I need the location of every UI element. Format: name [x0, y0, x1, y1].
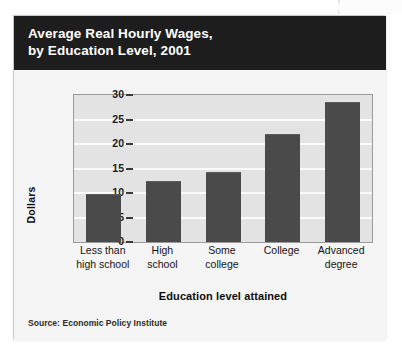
- bar: [86, 194, 121, 242]
- x-axis-category-label-line: college: [192, 258, 252, 272]
- bar: [265, 134, 300, 242]
- x-axis-category-label: Somecollege: [192, 244, 252, 271]
- x-axis-category-label-line: high school: [73, 258, 133, 272]
- bar: [146, 181, 181, 242]
- chart-body: Dollars 051015202530 Less thanhigh schoo…: [14, 70, 386, 340]
- scan-artifact: [338, 0, 402, 14]
- x-axis-category-label-line: Some: [192, 244, 252, 258]
- x-axis-category-label-line: degree: [311, 258, 371, 272]
- x-axis-category-label: Less thanhigh school: [73, 244, 133, 271]
- figure-title-band: Average Real Hourly Wages, by Education …: [14, 16, 386, 70]
- y-axis-title: Dollars: [25, 187, 37, 224]
- x-axis-category-label-line: High: [133, 244, 193, 258]
- x-axis-category-label-line: school: [133, 258, 193, 272]
- plot-area: 051015202530: [73, 94, 373, 243]
- x-axis-category-label: Highschool: [133, 244, 193, 271]
- figure-title-line-1: Average Real Hourly Wages,: [28, 25, 386, 42]
- figure-title-line-2: by Education Level, 2001: [28, 42, 386, 59]
- x-axis-category-label-line: College: [252, 244, 312, 258]
- bars-layer: [74, 95, 372, 242]
- x-axis-category-label-line: Less than: [73, 244, 133, 258]
- bar: [325, 102, 360, 242]
- x-axis-category-label: College: [252, 244, 312, 258]
- source-note: Source: Economic Policy Institute: [28, 318, 167, 328]
- x-axis-category-label: Advanceddegree: [311, 244, 371, 271]
- x-axis-category-labels: Less thanhigh schoolHighschoolSomecolleg…: [73, 244, 373, 278]
- x-axis-category-label-line: Advanced: [311, 244, 371, 258]
- figure-card: Average Real Hourly Wages, by Education …: [13, 15, 385, 339]
- x-axis-title: Education level attained: [73, 290, 373, 302]
- page-background: Average Real Hourly Wages, by Education …: [0, 0, 402, 357]
- bar: [206, 172, 241, 242]
